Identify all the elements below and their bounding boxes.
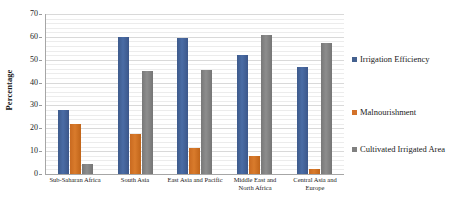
y-axis-tick-label: 60 [16,33,38,41]
bar [297,67,308,174]
bar-group [106,14,166,174]
bar-group [225,14,285,174]
bar [130,134,141,174]
bar [237,55,248,174]
bar [142,71,153,174]
y-axis-tick-label: 30 [16,101,38,109]
bar-group [46,14,106,174]
y-axis-tick-labels: 010203040506070 [16,14,42,174]
y-axis-title: Percentage [2,0,16,180]
bar [309,169,320,174]
y-axis-tick-label: 0 [16,170,38,178]
bar [58,110,69,174]
y-axis-tick-mark [39,174,42,175]
legend-item[interactable]: Cultivated Irrigated Area [352,144,445,154]
bar [118,37,129,174]
y-axis-tick-mark [39,105,42,106]
y-axis-tick-label: 50 [16,56,38,64]
x-axis-category-label: Middle East and North Africa [225,176,285,192]
y-axis-tick-mark [39,37,42,38]
y-axis-tick-label: 40 [16,79,38,87]
chart-legend: Irrigation EfficiencyMalnourishmentCulti… [352,14,464,174]
y-axis-tick-label: 10 [16,147,38,155]
y-axis-tick-mark [39,128,42,129]
legend-swatch-icon [352,57,357,62]
y-axis-tick-label: 70 [16,10,38,18]
y-axis-tick-mark [39,14,42,15]
y-axis-tick-label: 20 [16,124,38,132]
bar [189,148,200,174]
legend-item[interactable]: Malnourishment [352,107,416,117]
x-axis-category-label: East Asia and Pacific [165,176,225,192]
x-axis-category-labels: Sub-Saharan AfricaSouth AsiaEast Asia an… [45,176,345,192]
x-axis-category-label: South Asia [105,176,165,192]
bar [321,43,332,174]
plot-area [45,14,344,175]
y-axis-tick-mark [39,151,42,152]
bar [249,156,260,174]
bar [177,38,188,174]
y-axis-tick-mark [39,83,42,84]
bar-chart: Percentage 010203040506070 Sub-Saharan A… [0,0,465,211]
x-axis-category-label: Sub-Saharan Africa [45,176,105,192]
bar [201,70,212,174]
bars-layer [46,14,344,174]
bar [82,164,93,174]
bar-group [165,14,225,174]
bar [261,35,272,174]
legend-label: Malnourishment [360,107,416,117]
bar-group [284,14,344,174]
legend-swatch-icon [352,147,357,152]
legend-label: Irrigation Efficiency [360,54,429,64]
y-axis-tick-mark [39,60,42,61]
legend-label: Cultivated Irrigated Area [360,144,445,154]
x-axis-category-label: Central Asia and Europe [285,176,345,192]
bar [70,124,81,174]
y-axis-title-text: Percentage [4,70,14,111]
legend-item[interactable]: Irrigation Efficiency [352,54,429,64]
legend-swatch-icon [352,110,357,115]
